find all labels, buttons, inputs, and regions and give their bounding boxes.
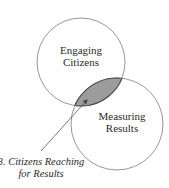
label-citizens: Citizens <box>63 56 99 68</box>
label-results: Results <box>106 122 138 134</box>
callout-label-line-1: 3. Citizens Reaching <box>0 156 84 167</box>
venn-diagram: Engaging Citizens Measuring Results 3. C… <box>0 0 169 188</box>
callout-arrow-icon <box>41 100 87 151</box>
label-measuring: Measuring <box>98 110 146 122</box>
callout-label-line-2: for Results <box>18 168 63 179</box>
label-engaging: Engaging <box>60 44 103 56</box>
